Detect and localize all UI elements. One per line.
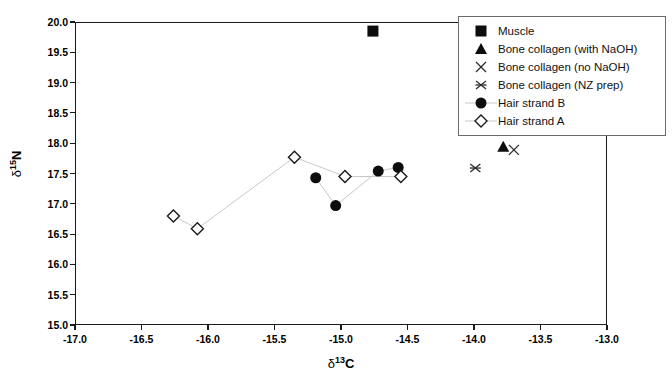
legend-item-label: Bone collagen (no NaOH): [498, 61, 630, 73]
x-axis-tick-label: -14.5: [396, 333, 420, 345]
legend-item: Hair strand A: [464, 112, 659, 130]
y-axis-tick-mark: [70, 294, 75, 295]
legend-marker-asterisk-icon: [464, 76, 498, 94]
legend-marker-filled-square-icon: [464, 22, 498, 40]
legend-symbol: [464, 22, 498, 40]
x-axis-tick-label: -14.0: [462, 333, 486, 345]
y-axis-tick-label: 18.5: [30, 107, 68, 119]
y-axis-tick-label: 15.5: [30, 289, 68, 301]
y-axis-tick-mark: [70, 234, 75, 235]
legend-marker-filled-circle-icon: [464, 94, 498, 112]
x-axis-tick-label: -17.0: [63, 333, 87, 345]
x-axis-title: δ13C: [328, 355, 355, 371]
legend-symbol: [464, 40, 498, 58]
x-axis-tick-mark: [606, 325, 607, 330]
y-axis-tick-label: 20.0: [30, 16, 68, 28]
y-axis-tick-mark: [70, 203, 75, 204]
x-axis-tick-mark: [274, 325, 275, 330]
legend-symbol: [464, 58, 498, 76]
x-axis-tick-mark: [407, 325, 408, 330]
y-axis-tick-label: 19.5: [30, 46, 68, 58]
legend-item: Hair strand B: [464, 94, 659, 112]
legend-marker-icon: [476, 98, 487, 109]
legend-symbol: [464, 76, 498, 94]
legend-marker-icon: [475, 115, 487, 127]
y-axis-tick-mark: [70, 143, 75, 144]
legend-marker-icon: [475, 43, 487, 54]
y-axis-tick-label: 15.0: [30, 319, 68, 331]
y-axis-tick-label: 16.5: [30, 228, 68, 240]
y-axis-tick-label: 17.0: [30, 198, 68, 210]
legend-item-label: Bone collagen (with NaOH): [498, 43, 637, 55]
scatter-chart-figure: 15.015.516.016.517.017.518.018.519.019.5…: [0, 0, 672, 386]
x-axis-element: C: [345, 356, 354, 371]
legend-item-label: Hair strand B: [498, 97, 565, 109]
x-axis-tick-label: -16.5: [130, 333, 154, 345]
legend-marker-open-diamond-icon: [464, 112, 498, 130]
x-axis-tick-label: -15.0: [329, 333, 353, 345]
legend-marker-icon: [476, 81, 487, 89]
y-axis-tick-label: 19.0: [30, 77, 68, 89]
y-axis-tick-label: 17.5: [30, 168, 68, 180]
y-axis-tick-mark: [70, 21, 75, 22]
x-axis-tick-label: -13.0: [595, 333, 619, 345]
legend-item: Bone collagen (with NaOH): [464, 40, 659, 58]
x-axis-tick-label: -15.5: [263, 333, 287, 345]
legend-item-label: Muscle: [498, 25, 534, 37]
x-axis-tick-mark: [74, 325, 75, 330]
y-axis-tick-label: 16.0: [30, 258, 68, 270]
y-axis-tick-mark: [70, 264, 75, 265]
legend-item: Bone collagen (NZ prep): [464, 76, 659, 94]
legend-marker-icon: [476, 62, 486, 72]
y-axis-element: N: [9, 151, 24, 160]
y-axis-tick-mark: [70, 52, 75, 53]
y-axis-superscript: 15: [8, 160, 18, 170]
legend-item: Muscle: [464, 22, 659, 40]
x-axis-superscript: 13: [335, 355, 345, 365]
chart-legend: MuscleBone collagen (with NaOH)Bone coll…: [458, 16, 666, 136]
legend-symbol: [464, 94, 498, 112]
legend-marker-cross-x-icon: [464, 58, 498, 76]
y-axis-delta-symbol: δ: [9, 170, 24, 177]
x-axis-tick-label: -16.0: [196, 333, 220, 345]
x-axis-tick-mark: [340, 325, 341, 330]
x-axis-tick-mark: [141, 325, 142, 330]
y-axis-tick-mark: [70, 82, 75, 83]
y-axis-tick-mark: [70, 112, 75, 113]
legend-symbol: [464, 112, 498, 130]
x-axis-tick-mark: [207, 325, 208, 330]
x-axis-tick-mark: [473, 325, 474, 330]
legend-item: Bone collagen (no NaOH): [464, 58, 659, 76]
legend-marker-filled-triangle-icon: [464, 40, 498, 58]
legend-item-label: Bone collagen (NZ prep): [498, 79, 623, 91]
y-axis-title: δ15N: [8, 151, 24, 178]
x-axis-tick-label: -13.5: [529, 333, 553, 345]
x-axis-tick-mark: [540, 325, 541, 330]
legend-item-label: Hair strand A: [498, 115, 564, 127]
legend-marker-icon: [476, 26, 487, 37]
y-axis-tick-mark: [70, 173, 75, 174]
y-axis-tick-label: 18.0: [30, 137, 68, 149]
